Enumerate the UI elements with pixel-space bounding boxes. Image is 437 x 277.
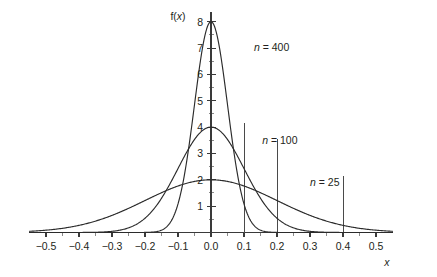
x-tick-label: −0.4 [69,240,90,252]
series-annotation: n = 400 [254,41,289,53]
density-curves-figure: −0.5−0.4−0.3−0.2−0.10.00.10.20.30.40.5 1… [0,0,437,277]
y-tick-label: 7 [197,42,203,54]
x-tick-label: 0.4 [336,240,351,252]
y-tick-label: 8 [197,16,203,28]
x-tick-label: 0.5 [369,240,384,252]
x-tick-label: −0.5 [36,240,57,252]
x-tick-label: 0.1 [237,240,252,252]
x-tick-label: 0.2 [270,240,285,252]
x-tick-label: 0.3 [303,240,318,252]
y-tick-label: 5 [197,95,203,107]
y-tick-label: 2 [197,174,203,186]
x-axis-tick-labels: −0.5−0.4−0.3−0.2−0.10.00.10.20.30.40.5 [36,240,384,252]
y-tick-label: 1 [197,200,203,212]
y-tick-label: 6 [197,68,203,80]
x-tick-label: −0.2 [135,240,156,252]
x-tick-label: −0.3 [102,240,123,252]
y-tick-label: 3 [197,147,203,159]
series-annotation: n = 100 [262,134,297,146]
x-axis-title: x [383,256,390,268]
y-tick-label: 4 [197,121,203,133]
series-annotation: n = 25 [310,176,340,188]
normal-density-chart: −0.5−0.4−0.3−0.2−0.10.00.10.20.30.40.5 1… [0,0,437,277]
y-axis-title: f(x) [170,10,185,22]
x-tick-label: 0.0 [204,240,219,252]
x-tick-label: −0.1 [168,240,189,252]
series-annotations: n = 400n = 100n = 25 [254,41,340,188]
y-axis-tick-labels: 12345678 [197,16,203,212]
